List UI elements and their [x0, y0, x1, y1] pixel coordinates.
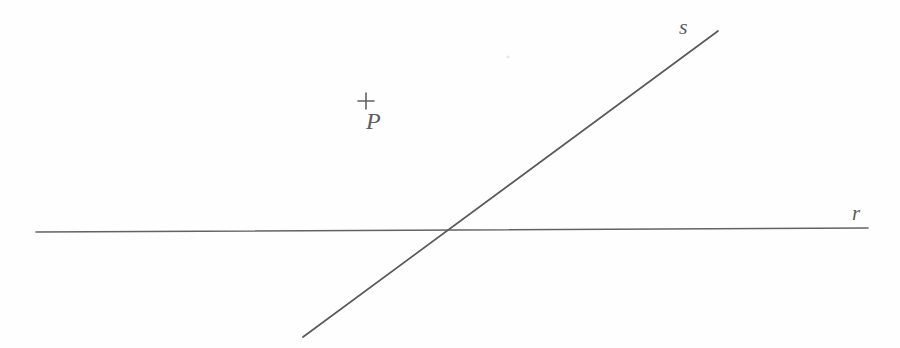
geometry-figure: [0, 0, 900, 348]
line-r: [36, 228, 868, 232]
point-p-label: P: [366, 109, 381, 133]
point-p-cross-icon: [358, 93, 374, 109]
line-s-label: s: [679, 16, 688, 38]
line-r-label: r: [852, 203, 860, 224]
geometry-diagram-canvas: r s P: [0, 0, 900, 348]
scan-speck-artifact: [506, 55, 509, 58]
line-s: [303, 31, 718, 337]
